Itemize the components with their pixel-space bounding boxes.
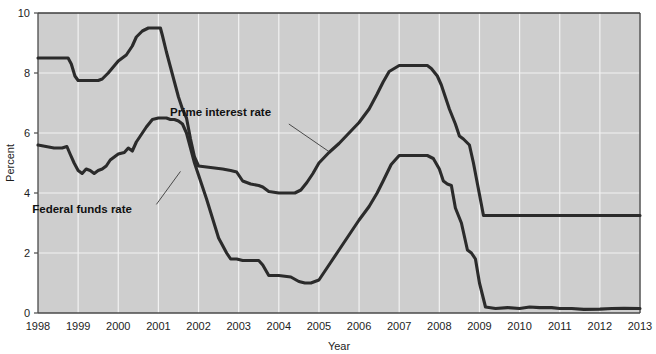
federal-funds-rate-annotation-label: Federal funds rate [32,203,132,215]
x-axis-tick-label: 2006 [347,320,371,332]
x-axis-tick-label: 2004 [267,320,291,332]
x-axis-tick-label: 1999 [66,320,90,332]
interest-rates-chart-figure: 0246810199819992000200120022003200420052… [0,0,656,354]
plot-area-background [38,13,640,313]
y-axis-tick-label: 10 [18,7,30,19]
x-axis-tick-label: 2010 [507,320,531,332]
x-axis-tick-label: 2000 [106,320,130,332]
x-axis-tick-label: 2001 [146,320,170,332]
x-axis-tick-label: 2005 [307,320,331,332]
x-axis-tick-label: 2008 [427,320,451,332]
y-axis-tick-label: 4 [24,187,30,199]
x-axis-tick-label: 2003 [226,320,250,332]
y-axis-tick-label: 2 [24,247,30,259]
x-axis-tick-label: 2002 [186,320,210,332]
x-axis-tick-label: 2013 [628,320,652,332]
y-axis-title: Percent [4,144,16,182]
x-axis-tick-label: 1998 [26,320,50,332]
chart-canvas: 0246810199819992000200120022003200420052… [0,0,656,354]
prime-interest-rate-annotation-label: Prime interest rate [170,106,271,118]
x-axis-tick-label: 2012 [588,320,612,332]
y-axis-tick-label: 8 [24,67,30,79]
x-axis-tick-label: 2011 [548,320,572,332]
x-axis-tick-label: 2007 [387,320,411,332]
y-axis-tick-label: 0 [24,307,30,319]
x-axis-tick-label: 2009 [467,320,491,332]
y-axis-tick-label: 6 [24,127,30,139]
x-axis-title: Year [328,340,351,352]
